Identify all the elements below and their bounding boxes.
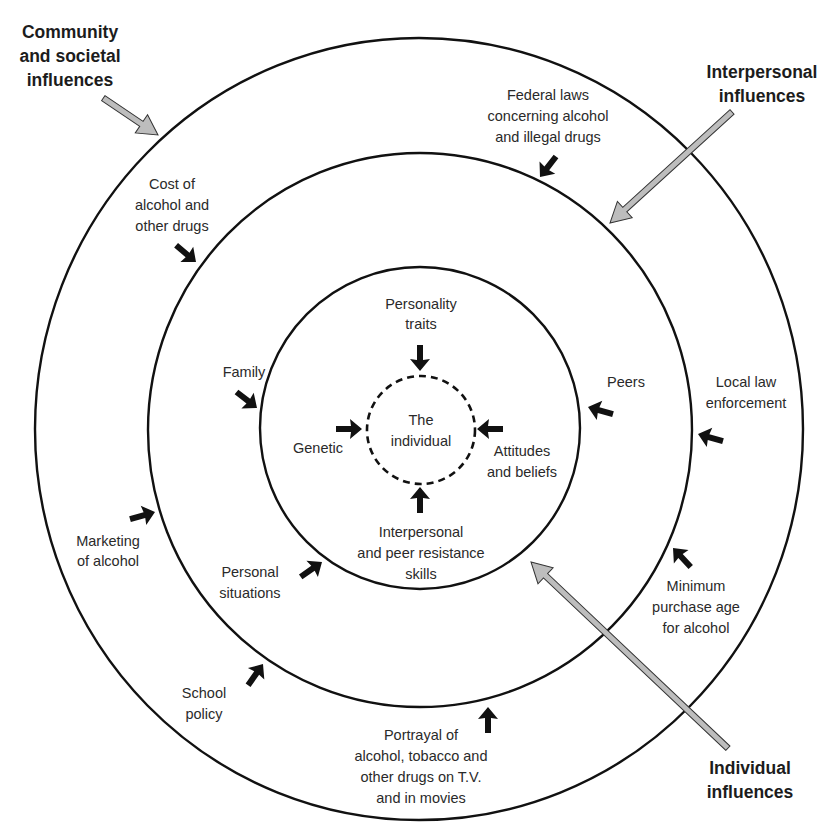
svg-text:other drugs: other drugs <box>135 218 208 234</box>
svg-text:The: The <box>409 412 434 428</box>
svg-text:alcohol and: alcohol and <box>135 197 209 213</box>
factor-federal-laws: Federal laws concerning alcohol and ille… <box>488 87 609 183</box>
svg-text:other drugs on T.V.: other drugs on T.V. <box>361 769 482 785</box>
pointer-arrow-community-icon <box>97 89 164 144</box>
svg-text:influences: influences <box>719 86 806 106</box>
svg-text:Genetic: Genetic <box>293 440 343 456</box>
svg-text:and peer resistance: and peer resistance <box>357 545 484 561</box>
svg-text:traits: traits <box>405 316 436 332</box>
factor-school-policy: School policy <box>182 658 271 722</box>
svg-text:alcohol, tobacco and: alcohol, tobacco and <box>354 748 487 764</box>
svg-text:and beliefs: and beliefs <box>487 464 557 480</box>
header-interpersonal: Interpersonal influences <box>707 62 818 106</box>
svg-text:purchase age: purchase age <box>652 599 740 615</box>
arrow-diagonal-icon <box>532 150 564 183</box>
arrow-up-icon <box>478 707 498 733</box>
svg-text:Personality: Personality <box>385 296 457 312</box>
arrow-diagonal-icon <box>230 384 263 416</box>
svg-text:and in movies: and in movies <box>376 790 465 806</box>
factor-genetic: Genetic <box>293 419 362 456</box>
svg-text:Individual: Individual <box>709 758 791 778</box>
influence-diagram: The individual Community and societal in… <box>0 0 837 837</box>
svg-text:influences: influences <box>27 70 114 90</box>
factor-marketing: Marketing of alcohol <box>76 502 158 569</box>
header-individual: Individual influences <box>707 758 794 802</box>
arrow-left-icon <box>585 397 616 423</box>
svg-text:Local law: Local law <box>716 374 777 390</box>
svg-text:policy: policy <box>185 706 223 722</box>
factor-peers: Peers <box>585 374 645 424</box>
arrow-left-icon <box>695 424 726 450</box>
svg-text:Minimum: Minimum <box>667 578 726 594</box>
arrow-diagonal-icon <box>295 554 328 585</box>
center-label: The individual <box>391 412 451 449</box>
svg-text:Marketing: Marketing <box>76 533 140 549</box>
factor-attitudes-beliefs: Attitudes and beliefs <box>477 419 557 480</box>
svg-text:Interpersonal: Interpersonal <box>707 62 818 82</box>
pointer-arrow-interpersonal-icon <box>603 104 740 231</box>
factor-cost: Cost of alcohol and other drugs <box>135 176 209 270</box>
arrow-diagonal-icon <box>666 541 698 574</box>
svg-text:for alcohol: for alcohol <box>663 620 730 636</box>
svg-text:skills: skills <box>405 566 436 582</box>
svg-text:and societal: and societal <box>19 46 120 66</box>
svg-text:situations: situations <box>219 585 280 601</box>
svg-text:enforcement: enforcement <box>706 395 787 411</box>
arrow-right-icon <box>336 419 362 439</box>
arrow-up-icon <box>410 487 430 513</box>
factor-minimum-age: Minimum purchase age for alcohol <box>652 541 740 636</box>
svg-text:individual: individual <box>391 433 451 449</box>
arrow-diagonal-icon <box>240 658 271 691</box>
header-community: Community and societal influences <box>19 22 120 90</box>
svg-text:Family: Family <box>223 364 266 380</box>
svg-text:Peers: Peers <box>607 374 645 390</box>
svg-text:and illegal drugs: and illegal drugs <box>495 129 601 145</box>
factor-personality-traits: Personality traits <box>385 296 457 371</box>
arrow-diagonal-icon <box>170 238 203 270</box>
svg-text:Cost of: Cost of <box>149 176 196 192</box>
middle-ring-interpersonal <box>148 153 692 707</box>
svg-text:Portrayal of: Portrayal of <box>384 727 459 743</box>
arrow-left-icon <box>477 419 503 439</box>
svg-text:Interpersonal: Interpersonal <box>379 524 464 540</box>
svg-text:of alcohol: of alcohol <box>77 553 139 569</box>
factor-portrayal-media: Portrayal of alcohol, tobacco and other … <box>354 707 498 806</box>
svg-text:Personal: Personal <box>221 564 278 580</box>
factor-local-law: Local law enforcement <box>695 374 786 451</box>
svg-text:Attitudes: Attitudes <box>494 443 550 459</box>
svg-text:influences: influences <box>707 782 794 802</box>
svg-text:Community: Community <box>22 22 119 42</box>
center-ring-individual <box>367 376 475 484</box>
factor-resistance-skills: Interpersonal and peer resistance skills <box>357 487 484 582</box>
svg-text:Federal laws: Federal laws <box>507 87 589 103</box>
svg-text:concerning alcohol: concerning alcohol <box>488 108 609 124</box>
arrow-right-icon <box>127 502 158 528</box>
arrow-down-icon <box>410 345 430 371</box>
svg-text:School: School <box>182 685 226 701</box>
factor-personal-situations: Personal situations <box>219 554 327 601</box>
factor-family: Family <box>223 364 266 416</box>
